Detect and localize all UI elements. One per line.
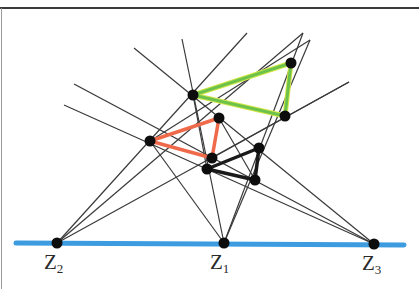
label-z3-main: Z — [362, 251, 375, 275]
label-z1-main: Z — [210, 250, 223, 274]
point-orange-b — [145, 136, 156, 147]
label-z2: Z2 — [44, 252, 63, 275]
point-orange-c — [207, 153, 218, 164]
orange-triangle — [150, 118, 219, 158]
label-z2-main: Z — [44, 250, 57, 274]
point-z2 — [52, 238, 63, 249]
point-z3 — [369, 239, 380, 250]
point-black-a — [202, 164, 213, 175]
point-black-b — [254, 143, 265, 154]
axis-line — [16, 243, 404, 245]
label-z1-sub: 1 — [223, 261, 230, 276]
black-triangle — [207, 148, 259, 180]
label-z1: Z1 — [210, 252, 229, 275]
point-green-b — [286, 58, 297, 69]
point-black-c — [250, 175, 261, 186]
perspective-diagram — [0, 0, 419, 289]
label-z3: Z3 — [362, 253, 381, 276]
point-orange-a — [214, 113, 225, 124]
label-z3-sub: 3 — [375, 262, 382, 277]
label-z2-sub: 2 — [57, 261, 64, 276]
point-green-a — [188, 90, 199, 101]
point-z1 — [219, 238, 230, 249]
diagram-frame: Z2 Z1 Z3 — [0, 0, 419, 289]
point-green-c — [280, 111, 291, 122]
